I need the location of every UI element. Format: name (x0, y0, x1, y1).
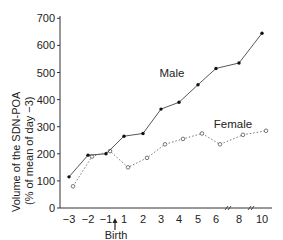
data-point (67, 175, 70, 178)
female-series-label: Female (214, 118, 252, 130)
series-female (71, 129, 268, 188)
data-point (260, 32, 263, 35)
x-tick-label: 6 (213, 213, 219, 225)
data-point (126, 166, 130, 170)
x-ticks: −3−2−1123456810 (63, 213, 268, 225)
data-point (141, 132, 144, 135)
x-tick-label: 2 (140, 213, 146, 225)
line-chart: Volume of the SDN-POA (% of mean of day … (0, 0, 283, 240)
data-point (71, 185, 75, 189)
data-point (200, 132, 204, 136)
x-tick-label: 1 (121, 213, 127, 225)
y-tick-label: 400 (37, 94, 55, 106)
y-tick-label: 200 (37, 148, 55, 160)
data-point (218, 143, 222, 147)
x-tick-label: 10 (256, 213, 268, 225)
x-tick-label: −1 (100, 213, 113, 225)
data-point (181, 137, 185, 141)
data-point (241, 133, 245, 137)
data-point (159, 107, 162, 110)
x-tick-label: 3 (158, 213, 164, 225)
y-axis-title-line2: (% of mean of day −3) (23, 96, 35, 205)
x-tick-label: 4 (176, 213, 182, 225)
female-line (73, 131, 266, 187)
y-tick-label: 700 (37, 12, 55, 24)
data-point (237, 61, 240, 64)
y-tick-label: 100 (37, 175, 55, 187)
y-tick-label: 300 (37, 121, 55, 133)
x-tick-label: 8 (236, 213, 242, 225)
x-tick-label: −2 (82, 213, 95, 225)
data-point (163, 143, 167, 147)
birth-label: Birth (105, 229, 128, 240)
data-point (264, 129, 268, 133)
data-point (214, 67, 217, 70)
x-tick-label: −3 (63, 213, 76, 225)
data-point (145, 156, 149, 160)
data-point (86, 153, 89, 156)
y-axis-title: Volume of the SDN-POA (% of mean of day … (10, 91, 35, 212)
y-tick-label: 600 (37, 39, 55, 51)
data-point (196, 83, 199, 86)
series-male (67, 32, 263, 179)
data-point (177, 101, 180, 104)
x-tick-label: 5 (195, 213, 201, 225)
data-point (104, 152, 107, 155)
y-tick-label: 0 (49, 202, 55, 214)
data-point (122, 134, 125, 137)
y-axis-title-line1: Volume of the SDN-POA (10, 91, 22, 212)
y-ticks: 0100200300400500600700 (37, 12, 60, 214)
male-series-label: Male (160, 67, 185, 79)
male-line (69, 33, 262, 177)
y-tick-label: 500 (37, 67, 55, 79)
